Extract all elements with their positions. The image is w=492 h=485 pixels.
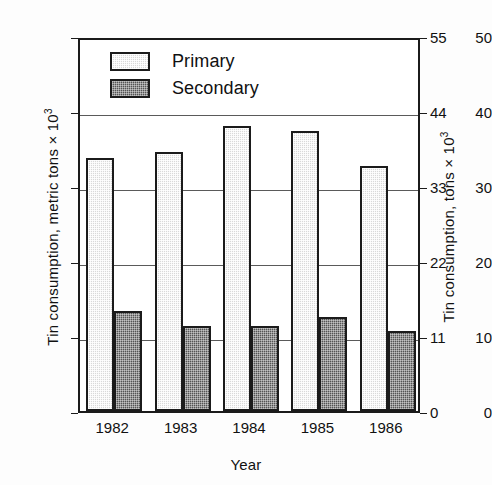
y-tick-right <box>420 263 427 264</box>
y-axis-right-title-text: Tin consumption, tons × 10 <box>440 137 457 322</box>
x-tick-label-1983: 1983 <box>151 419 211 436</box>
bar-secondary-1984 <box>251 326 279 412</box>
x-tick-label-1985: 1985 <box>287 419 347 436</box>
x-tick-label-1986: 1986 <box>356 419 416 436</box>
bar-secondary-1986 <box>388 331 416 411</box>
y-tick-left <box>71 338 78 339</box>
bar-secondary-1982 <box>114 311 142 412</box>
bar-primary-1982 <box>86 158 114 412</box>
y-axis-left-title-exponent: 3 <box>43 108 54 114</box>
x-axis-title: Year <box>0 456 492 473</box>
legend-item-secondary: Secondary <box>110 75 259 102</box>
bar-primary-1985 <box>291 131 319 411</box>
y-tick-left <box>71 113 78 114</box>
bar-secondary-1983 <box>183 326 211 412</box>
y-axis-right-title-exponent: 3 <box>439 132 450 138</box>
y-tick-left <box>71 188 78 189</box>
y-tick-right <box>420 38 427 39</box>
legend-swatch-primary <box>110 52 150 71</box>
y-tick-label-right: 0 <box>430 404 438 421</box>
x-tick-label-1982: 1982 <box>82 419 142 436</box>
bar-primary-1986 <box>360 166 388 411</box>
bar-primary-1983 <box>155 152 183 411</box>
bar-secondary-1985 <box>319 317 347 412</box>
y-axis-left-title: Tin consumption, metric tons × 103 <box>43 57 61 397</box>
y-tick-right <box>420 188 427 189</box>
y-tick-label-right: 22 <box>430 254 447 271</box>
y-tick-left <box>71 413 78 414</box>
y-axis-left-title-text: Tin consumption, metric tons × 10 <box>44 114 61 346</box>
y-tick-label-right: 33 <box>430 179 447 196</box>
y-tick-label-right: 11 <box>430 329 446 346</box>
legend-label-secondary: Secondary <box>172 78 259 99</box>
legend-item-primary: Primary <box>110 48 259 75</box>
y-tick-label-right: 55 <box>430 29 447 46</box>
bar-primary-1984 <box>223 126 251 411</box>
y-tick-label-right: 44 <box>430 104 447 121</box>
legend-swatch-secondary <box>110 79 150 98</box>
legend-label-primary: Primary <box>172 51 235 72</box>
plot-area: Primary Secondary <box>78 38 420 413</box>
legend: Primary Secondary <box>110 48 259 102</box>
y-tick-left <box>71 263 78 264</box>
y-tick-right <box>420 338 427 339</box>
y-tick-left <box>71 38 78 39</box>
y-tick-right <box>420 413 427 414</box>
x-tick-label-1984: 1984 <box>219 419 279 436</box>
gridline <box>80 115 418 116</box>
chart-figure: Tin consumption, metric tons × 103 Tin c… <box>0 0 492 485</box>
y-tick-right <box>420 113 427 114</box>
